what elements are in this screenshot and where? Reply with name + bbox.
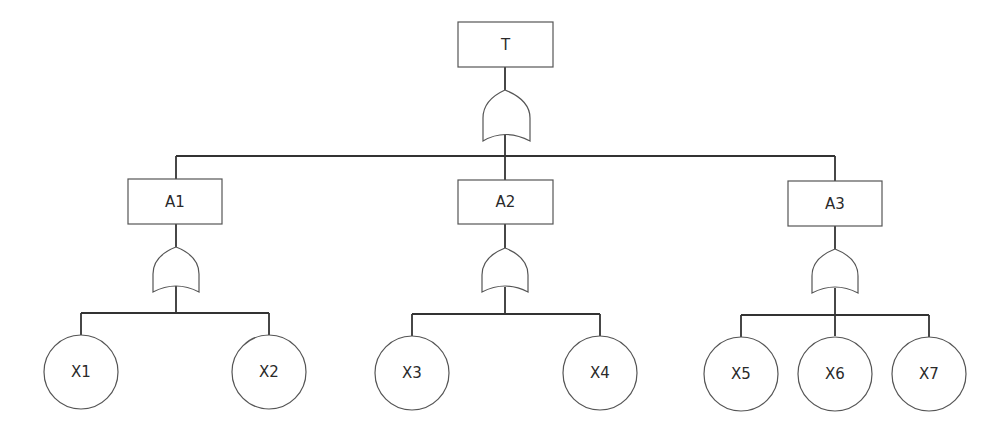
basic-event-x4[interactable]: X4 — [563, 336, 637, 410]
basic-event-x2[interactable]: X2 — [232, 335, 306, 409]
event-label: X5 — [731, 365, 751, 383]
intermediate-event-a3[interactable]: A3 — [788, 181, 882, 226]
basic-event-x1[interactable]: X1 — [44, 335, 118, 409]
basic-event-x5[interactable]: X5 — [704, 337, 778, 411]
event-label: X4 — [590, 364, 610, 382]
basic-event-x3[interactable]: X3 — [375, 336, 449, 410]
event-label: A3 — [825, 195, 845, 213]
event-label: X6 — [825, 365, 845, 383]
top-event-t[interactable]: T — [458, 22, 553, 67]
basic-event-x6[interactable]: X6 — [798, 337, 872, 411]
intermediate-event-a1[interactable]: A1 — [128, 179, 222, 224]
or-gate-icon — [483, 90, 530, 141]
event-label: X2 — [259, 363, 279, 381]
or-gate-icon — [153, 247, 199, 292]
event-label: A1 — [165, 193, 185, 211]
event-label: X1 — [71, 363, 91, 381]
event-label: A2 — [496, 193, 516, 211]
or-gate-icon — [812, 249, 858, 293]
event-label: X3 — [402, 364, 422, 382]
event-label: T — [500, 36, 511, 54]
basic-event-x7[interactable]: X7 — [892, 337, 966, 411]
or-gate-icon — [482, 248, 528, 292]
fault-tree-diagram: T A1 A2 A3 X1 X2 X3 X4 X5 X6 — [0, 0, 1004, 430]
event-label: X7 — [919, 365, 939, 383]
intermediate-event-a2[interactable]: A2 — [458, 180, 553, 224]
